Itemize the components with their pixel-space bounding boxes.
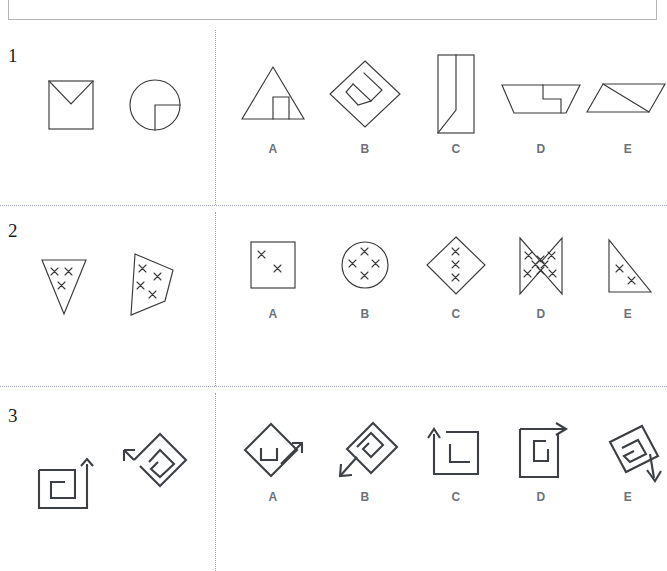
tall-rectangle-with-diagonal-fold-icon	[427, 52, 485, 136]
diamond-three-x-icon	[424, 234, 488, 298]
option-1-B-label: B	[320, 142, 410, 156]
option-1-A-art	[228, 48, 318, 140]
options-panel-3: A B C	[215, 400, 667, 571]
circle-four-x-icon	[336, 237, 394, 295]
option-1-E-label: E	[583, 142, 667, 156]
circle-with-quarter-wedge-icon	[124, 74, 186, 136]
option-1-E-art	[583, 48, 667, 140]
tilted-square-spiral-arrow-down-icon	[590, 418, 666, 488]
stimulus-inverted-triangle-three-x	[20, 245, 110, 325]
square-with-v-flap-icon	[41, 75, 101, 135]
row-divider-1	[0, 205, 667, 206]
trapezoid-with-inner-step-icon	[498, 67, 584, 121]
option-3-E-art	[583, 418, 667, 488]
row-divider-2	[0, 386, 667, 387]
option-3-A-art	[228, 418, 318, 488]
options-panel-1: A B C	[215, 40, 667, 205]
triangle-with-inner-notch-icon	[236, 59, 310, 129]
parallelogram-with-diagonal-icon	[585, 70, 667, 118]
option-3-B[interactable]: B	[320, 418, 410, 504]
square-spiral-arrow-up-left-icon	[422, 420, 490, 486]
option-2-D[interactable]: D	[496, 227, 586, 321]
rotated-diamond-spiral-arrow-icon	[112, 428, 192, 508]
option-1-A-label: A	[228, 142, 318, 156]
column-divider-row-3	[215, 393, 216, 571]
option-1-B[interactable]: B	[320, 48, 410, 156]
square-two-x-icon	[244, 237, 302, 295]
option-2-B-art	[320, 227, 410, 305]
option-1-C-art	[411, 48, 501, 140]
stimulus-rotated-diamond-spiral-arrow	[102, 424, 202, 512]
option-1-A[interactable]: A	[228, 48, 318, 156]
diamond-spiral-arrow-upright-icon	[237, 418, 309, 488]
option-3-A-label: A	[228, 490, 318, 504]
quadrilateral-four-x-icon	[121, 249, 185, 321]
column-divider-row-2	[215, 212, 216, 386]
option-1-C-label: C	[411, 142, 501, 156]
puzzle-row-3: 3	[0, 400, 667, 571]
option-3-D-art	[496, 418, 586, 488]
rotated-spiral-arrow-downleft-icon	[327, 417, 403, 489]
bowtie-eight-x-icon	[510, 234, 572, 298]
stimulus-square-with-v-flap	[28, 60, 114, 150]
puzzle-row-1: 1 A	[0, 40, 667, 205]
square-spiral-up-arrow-icon	[31, 456, 101, 520]
option-3-E[interactable]: E	[583, 418, 667, 504]
option-1-D[interactable]: D	[496, 48, 586, 156]
stimulus-circle-with-quarter-wedge	[112, 60, 198, 150]
option-3-E-label: E	[583, 490, 667, 504]
option-3-B-art	[320, 418, 410, 488]
option-2-A-art	[228, 227, 318, 305]
option-3-C[interactable]: C	[411, 418, 501, 504]
instruction-box	[8, 0, 657, 20]
option-2-E-art	[583, 227, 667, 305]
stimulus-panel-3	[0, 400, 215, 571]
option-3-C-art	[411, 418, 501, 488]
stimulus-quadrilateral-four-x	[105, 245, 200, 325]
stimulus-panel-2	[0, 215, 215, 380]
option-3-A[interactable]: A	[228, 418, 318, 504]
option-2-A[interactable]: A	[228, 227, 318, 321]
option-2-A-label: A	[228, 307, 318, 321]
option-1-D-label: D	[496, 142, 586, 156]
option-3-C-label: C	[411, 490, 501, 504]
option-1-D-art	[496, 48, 586, 140]
option-1-C[interactable]: C	[411, 48, 501, 156]
option-1-B-art	[320, 48, 410, 140]
option-3-D-label: D	[496, 490, 586, 504]
option-3-D[interactable]: D	[496, 418, 586, 504]
option-2-B[interactable]: B	[320, 227, 410, 321]
inverted-triangle-three-x-icon	[36, 252, 94, 318]
option-2-E-label: E	[583, 307, 667, 321]
option-2-B-label: B	[320, 307, 410, 321]
column-divider-row-1	[215, 30, 216, 205]
diamond-with-inner-diamond-notch-icon	[325, 56, 405, 132]
option-2-C[interactable]: C	[411, 227, 501, 321]
option-2-C-label: C	[411, 307, 501, 321]
options-panel-2: A B	[215, 215, 667, 380]
right-triangle-two-x-icon	[599, 236, 657, 296]
option-2-E[interactable]: E	[583, 227, 667, 321]
puzzle-row-2: 2	[0, 215, 667, 380]
option-2-D-art	[496, 227, 586, 305]
stimulus-square-spiral-up-arrow	[20, 448, 112, 528]
option-1-E[interactable]: E	[583, 48, 667, 156]
option-2-D-label: D	[496, 307, 586, 321]
option-3-B-label: B	[320, 490, 410, 504]
square-spiral-arrow-up-right-icon	[508, 417, 574, 489]
stimulus-panel-1	[0, 40, 215, 205]
option-2-C-art	[411, 227, 501, 305]
